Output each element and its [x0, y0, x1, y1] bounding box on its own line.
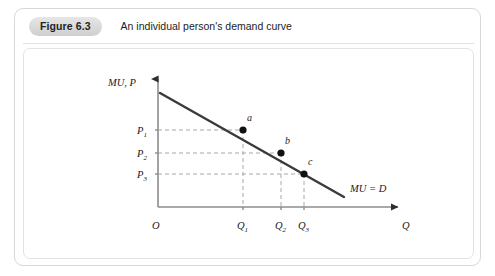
demand-curve-line	[160, 93, 344, 197]
x-tick-label-q1: Q1	[237, 220, 248, 234]
data-point-c	[300, 170, 307, 177]
figure-number-label: Figure 6.3	[29, 17, 102, 36]
origin-label: O	[152, 220, 160, 231]
y-tick-label-p3: P3	[136, 169, 147, 183]
demand-curve-chart: a b c MU, P Q O P1 P2 P3 Q1 Q2	[24, 49, 473, 258]
data-point-b	[277, 149, 284, 156]
x-axis-label: Q	[402, 220, 410, 231]
point-label-b: b	[285, 135, 290, 146]
figure-header: Figure 6.3 An individual person's demand…	[15, 9, 480, 43]
plot-panel: a b c MU, P Q O P1 P2 P3 Q1 Q2	[23, 48, 474, 259]
data-point-a	[239, 126, 246, 133]
y-axis-label: MU, P	[107, 77, 137, 88]
y-tick-label-p2: P2	[136, 148, 147, 162]
header-divider	[23, 43, 474, 44]
demand-curve-label: MU = D	[349, 183, 387, 194]
figure-title: An individual person's demand curve	[121, 20, 292, 32]
point-label-a: a	[247, 112, 252, 123]
x-tick-label-q2: Q2	[275, 220, 287, 234]
x-tick-label-q3: Q3	[298, 220, 310, 234]
y-tick-label-p1: P1	[136, 125, 147, 139]
point-label-c: c	[308, 156, 313, 167]
figure-card: Figure 6.3 An individual person's demand…	[14, 8, 481, 266]
